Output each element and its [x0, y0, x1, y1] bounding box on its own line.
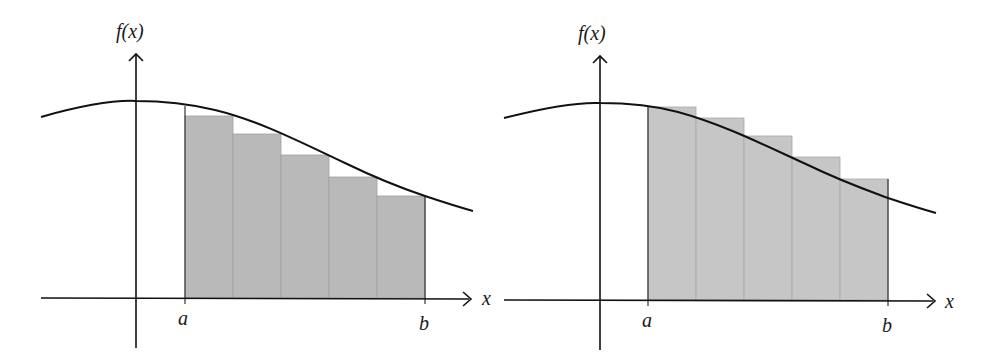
lower-sum-panel: f(x) x a b [0, 0, 496, 356]
y-axis-label: f(x) [578, 22, 606, 45]
x-axis [41, 298, 469, 299]
rectangle-5 [840, 179, 888, 300]
upper-sum-graph: f(x) x a b [496, 0, 993, 356]
a-label: a [178, 307, 188, 329]
x-axis-label: x [481, 287, 491, 309]
a-label: a [642, 309, 652, 331]
rectangle-2 [233, 134, 281, 298]
b-label: b [419, 312, 429, 334]
lower-sum-graph: f(x) x a b [0, 0, 496, 356]
rectangle-4 [792, 157, 840, 300]
b-label: b [882, 314, 892, 336]
x-axis [504, 300, 933, 301]
upper-sum-panel: f(x) x a b [496, 0, 993, 356]
rectangle-3 [744, 136, 792, 300]
rectangle-5 [377, 196, 425, 298]
rectangle-1 [185, 116, 233, 298]
rectangle-3 [281, 155, 329, 298]
y-axis-label: f(x) [116, 20, 144, 43]
rectangle-2 [696, 118, 744, 300]
riemann-rectangles [648, 107, 888, 300]
rectangle-1 [648, 107, 696, 300]
rectangle-4 [329, 177, 377, 298]
x-axis-label: x [944, 290, 954, 312]
